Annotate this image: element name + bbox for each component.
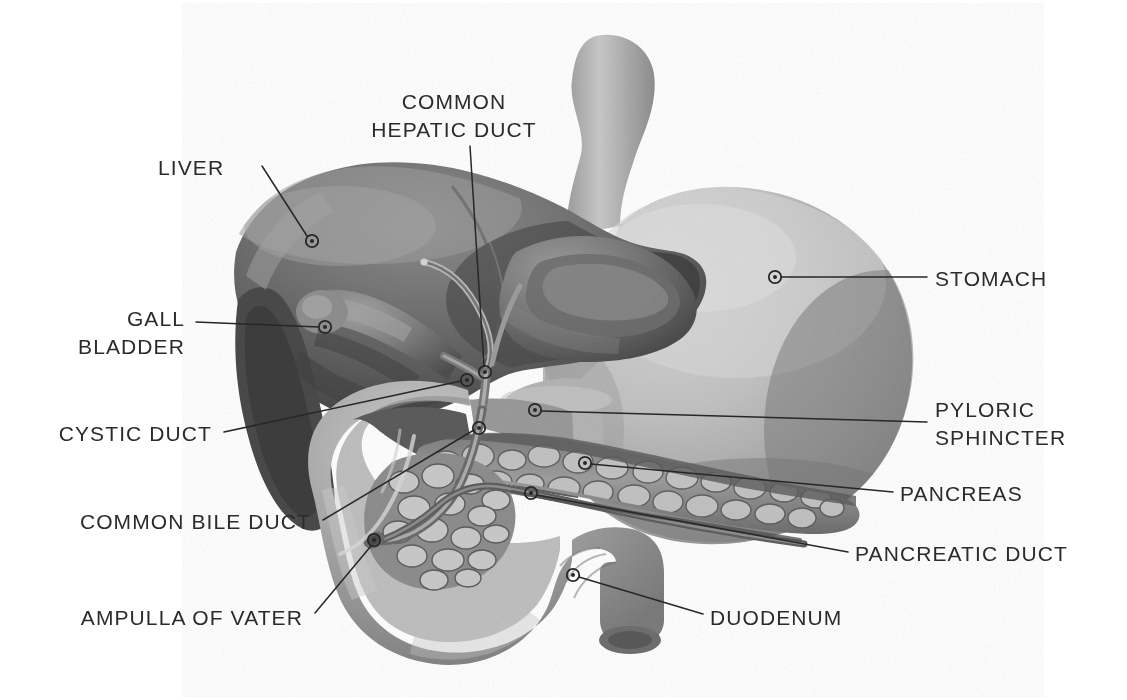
label-liver: LIVER <box>158 154 224 182</box>
leader-line-gall-bladder <box>196 322 319 327</box>
leader-line-pancreas <box>591 464 893 492</box>
marker-common-bile-duct[interactable] <box>473 422 485 434</box>
anatomy-figure: LIVERCOMMON HEPATIC DUCTGALL BLADDERSTOM… <box>0 0 1127 700</box>
marker-stomach[interactable] <box>769 271 781 283</box>
label-ampulla-of-vater: AMPULLA OF VATER <box>0 604 303 632</box>
leader-line-common-bile-duct <box>323 430 474 520</box>
marker-cystic-duct[interactable] <box>461 374 473 386</box>
label-duodenum: DUODENUM <box>710 604 842 632</box>
leader-line-common-hepatic-duct <box>470 146 484 366</box>
marker-pyloric-sphincter[interactable] <box>529 404 541 416</box>
label-gall-bladder: GALL BLADDER <box>0 305 185 361</box>
leader-line-liver <box>262 166 307 236</box>
marker-gall-bladder[interactable] <box>319 321 331 333</box>
marker-liver[interactable] <box>306 235 318 247</box>
leader-line-cystic-duct <box>224 381 461 432</box>
label-cystic-duct: CYSTIC DUCT <box>0 420 212 448</box>
leader-line-pyloric-sphincter <box>541 411 927 422</box>
marker-pancreas[interactable] <box>579 457 591 469</box>
marker-ampulla-of-vater[interactable] <box>368 534 380 546</box>
marker-pancreatic-duct[interactable] <box>525 487 537 499</box>
label-stomach: STOMACH <box>935 265 1047 293</box>
leader-line-duodenum <box>579 577 703 614</box>
marker-common-hepatic-duct[interactable] <box>479 366 491 378</box>
label-common-bile-duct: COMMON BILE DUCT <box>0 508 311 536</box>
label-pancreas: PANCREAS <box>900 480 1023 508</box>
label-common-hepatic-duct: COMMON HEPATIC DUCT <box>254 88 654 144</box>
leader-line-ampulla-of-vater <box>315 546 371 613</box>
marker-duodenum[interactable] <box>567 569 579 581</box>
label-pancreatic-duct: PANCREATIC DUCT <box>855 540 1068 568</box>
leader-line-pancreatic-duct <box>537 495 848 552</box>
label-pyloric-sphincter: PYLORIC SPHINCTER <box>935 396 1066 452</box>
